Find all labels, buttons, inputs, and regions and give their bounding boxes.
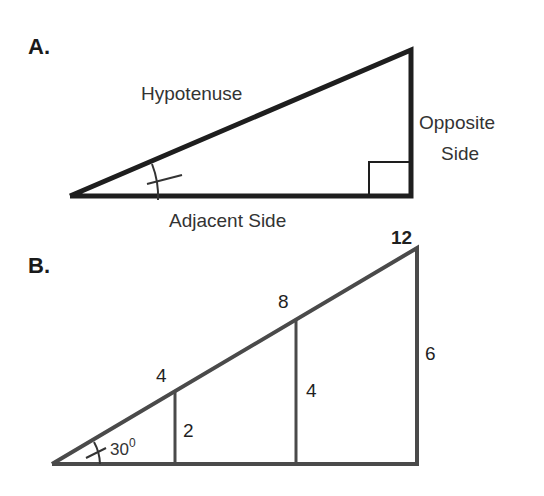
hyp-mark-8: 8 [278,291,289,312]
angle-label: 300 [110,436,136,459]
hypotenuse-label: Hypotenuse [141,83,242,104]
panel-b: B. 300 4 8 12 2 4 6 [28,227,436,464]
adjacent-label: Adjacent Side [169,210,286,231]
hyp-mark-4: 4 [156,365,167,386]
angle-tick-b [86,448,106,458]
right-angle-marker [369,162,411,196]
panel-b-label: B. [28,253,50,278]
hyp-mark-12: 12 [391,227,412,248]
opposite-label-line2: Side [441,143,479,164]
vertical-label-6: 6 [425,343,436,364]
opposite-label-line1: Opposite [419,112,495,133]
trig-diagram: A. Hypotenuse Opposite Side Adjacent Sid… [0,0,544,496]
panel-a: A. Hypotenuse Opposite Side Adjacent Sid… [28,34,495,231]
angle-tick-a [147,175,182,184]
vertical-label-2: 2 [183,420,194,441]
panel-a-label: A. [28,34,50,59]
triangle-b [52,248,417,464]
triangle-a [70,50,411,196]
vertical-label-4: 4 [306,380,317,401]
